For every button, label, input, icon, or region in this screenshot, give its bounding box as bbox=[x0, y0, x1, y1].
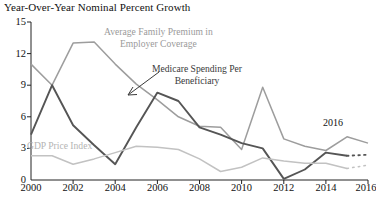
series-line-gdp-projection bbox=[347, 165, 368, 168]
annotation-medicare-line1: Medicare Spending Per bbox=[152, 63, 242, 75]
annotation-medicare-line2: Beneficiary bbox=[152, 75, 242, 87]
series-line-medicare-projection bbox=[347, 155, 368, 156]
y-axis-ticks bbox=[27, 22, 31, 148]
x-tick-label: 2000 bbox=[21, 182, 42, 193]
x-tick-label: 2016 bbox=[356, 182, 376, 193]
y-tick-label: 15 bbox=[4, 16, 26, 27]
annotation-end-year: 2016 bbox=[323, 117, 343, 129]
annotation-premium-line2: Employer Coverage bbox=[104, 38, 213, 50]
y-tick-label: 3 bbox=[4, 142, 26, 153]
series-line-medicare bbox=[31, 85, 347, 179]
x-axis: 2000 2002 2004 2006 2008 2010 2012 2014 … bbox=[0, 182, 376, 198]
y-tick-label: 9 bbox=[4, 79, 26, 90]
y-tick-label: 6 bbox=[4, 111, 26, 122]
annotation-premium-label: Average Family Premium in Employer Cover… bbox=[104, 26, 213, 49]
y-axis: 15 12 9 6 3 0 bbox=[0, 22, 26, 180]
annotation-premium-line1: Average Family Premium in bbox=[104, 26, 213, 38]
chart-container: Year-Over-Year Nominal Percent Growth 15… bbox=[0, 0, 376, 203]
y-tick-label: 12 bbox=[4, 48, 26, 59]
annotation-medicare-label: Medicare Spending Per Beneficiary bbox=[152, 63, 242, 86]
annotation-gdp-label: GDP Price Index bbox=[27, 140, 92, 152]
chart-title: Year-Over-Year Nominal Percent Growth bbox=[4, 1, 190, 13]
